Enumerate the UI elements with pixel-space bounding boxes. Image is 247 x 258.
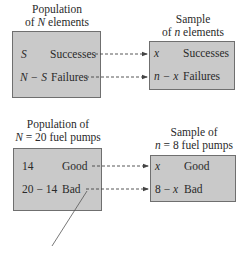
pointer-line (52, 191, 87, 246)
connector-layer (0, 0, 247, 258)
